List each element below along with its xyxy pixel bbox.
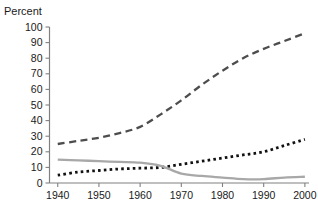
data-series-group	[58, 33, 305, 179]
y-tick-label: 10	[31, 161, 43, 173]
y-tick-label: 20	[31, 145, 43, 157]
x-tick-label: 2000	[293, 189, 317, 201]
x-tick-label: 1990	[252, 189, 276, 201]
y-tick-label: 30	[31, 130, 43, 142]
x-tick-label: 1960	[128, 189, 152, 201]
series-line-dashed-series	[58, 33, 305, 144]
x-axis-tick-marks	[58, 183, 305, 187]
y-tick-label: 0	[37, 177, 43, 189]
x-axis-tick-labels: 1940195019601970198019902000	[46, 189, 317, 201]
x-tick-label: 1950	[87, 189, 111, 201]
y-axis-title: Percent	[4, 5, 42, 17]
y-tick-label: 60	[31, 83, 43, 95]
chart-container: Percent 0102030405060708090100 194019501…	[0, 0, 318, 214]
x-tick-label: 1970	[170, 189, 194, 201]
y-tick-label: 90	[31, 36, 43, 48]
y-tick-label: 40	[31, 114, 43, 126]
y-tick-label: 70	[31, 67, 43, 79]
x-tick-label: 1980	[211, 189, 235, 201]
y-tick-label: 50	[31, 99, 43, 111]
y-tick-label: 80	[31, 52, 43, 64]
series-line-dotted-series	[58, 139, 305, 175]
y-axis-tick-labels: 0102030405060708090100	[25, 21, 43, 189]
series-line-solid-gray-series	[58, 160, 305, 180]
x-tick-label: 1940	[46, 189, 70, 201]
y-tick-label: 100	[25, 21, 43, 33]
line-chart: Percent 0102030405060708090100 194019501…	[0, 0, 318, 214]
